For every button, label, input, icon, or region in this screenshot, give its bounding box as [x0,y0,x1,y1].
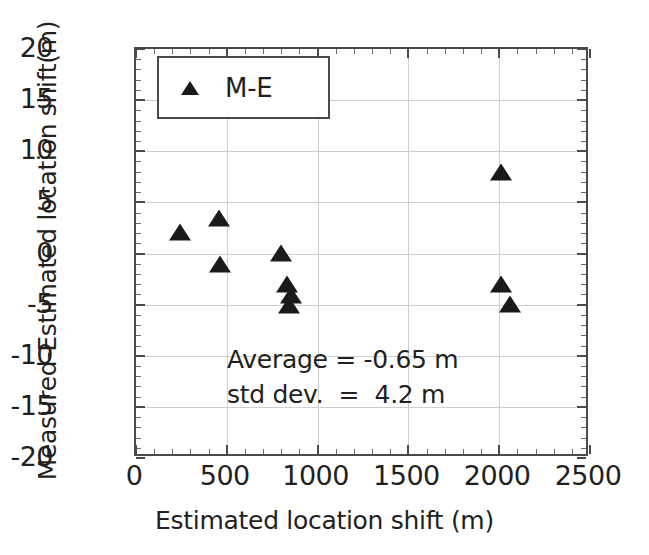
x-tick-minor [336,49,337,54]
y-tick-minor [581,397,586,398]
data-point-marker [169,224,191,241]
x-tick-minor [445,449,446,454]
y-tick-label: 0 [0,238,53,265]
y-tick-minor [581,325,586,326]
x-tick-minor [463,449,464,454]
y-tick-minor [581,274,586,275]
x-tick-major [407,445,409,454]
y-tick-minor [136,90,141,91]
legend-box: M-E [157,56,330,119]
y-tick-major [136,99,145,101]
x-tick-minor [263,49,264,54]
x-tick-minor [372,449,373,454]
y-tick-label: 10 [0,136,53,163]
statistics-annotation: Average = -0.65 mstd dev. = 4.2 m [227,343,458,412]
y-tick-minor [581,264,586,265]
x-tick-minor [209,449,210,454]
y-tick-major [577,457,586,459]
x-tick-minor [190,449,191,454]
y-tick-minor [136,325,141,326]
data-point-marker [278,296,300,313]
x-tick-minor [390,49,391,54]
y-tick-minor [581,161,586,162]
y-tick-minor [581,213,586,214]
y-tick-major [577,201,586,203]
y-tick-label: 20 [0,34,53,61]
y-tick-minor [581,141,586,142]
y-tick-minor [136,223,141,224]
annotation-line: std dev. = 4.2 m [227,378,458,413]
y-tick-minor [136,438,141,439]
data-point-marker [209,255,231,272]
x-tick-minor [536,449,537,454]
y-tick-minor [581,294,586,295]
x-tick-minor [299,49,300,54]
x-tick-minor [427,449,428,454]
x-tick-minor [572,449,573,454]
x-tick-minor [336,449,337,454]
x-tick-major [589,445,591,454]
y-tick-minor [136,243,141,244]
y-tick-minor [581,335,586,336]
gridline-horizontal [136,254,586,255]
x-tick-minor [517,449,518,454]
y-tick-major [577,150,586,152]
y-tick-minor [136,233,141,234]
y-tick-major [136,48,145,50]
y-tick-minor [136,192,141,193]
x-tick-major [135,49,137,58]
x-tick-label: 2500 [528,462,648,489]
y-tick-major [136,457,145,459]
y-tick-major [136,150,145,152]
x-tick-minor [427,49,428,54]
y-tick-label: 5 [0,187,53,214]
x-tick-minor [172,49,173,54]
y-tick-minor [136,69,141,70]
y-tick-label: 15 [0,85,53,112]
data-point-marker [208,209,230,226]
y-tick-minor [136,121,141,122]
y-tick-minor [581,110,586,111]
y-tick-minor [581,243,586,244]
x-tick-minor [481,49,482,54]
x-tick-major [407,49,409,58]
x-tick-minor [554,449,555,454]
y-tick-major [577,99,586,101]
y-tick-minor [136,366,141,367]
y-tick-minor [581,80,586,81]
y-tick-major [577,48,586,50]
y-tick-label: -5 [0,289,53,316]
x-tick-minor [245,49,246,54]
data-point-marker [499,295,521,312]
y-tick-minor [581,172,586,173]
gridline-vertical [499,49,500,454]
x-tick-minor [190,49,191,54]
y-tick-minor [136,80,141,81]
y-tick-minor [581,315,586,316]
y-tick-minor [136,264,141,265]
x-tick-minor [372,49,373,54]
y-tick-minor [581,233,586,234]
y-tick-minor [581,366,586,367]
y-tick-minor [136,386,141,387]
y-tick-minor [136,315,141,316]
x-tick-minor [281,49,282,54]
legend-label: M-E [225,73,272,103]
x-tick-minor [299,449,300,454]
x-tick-minor [390,449,391,454]
triangle-marker-icon [181,81,199,95]
x-tick-minor [281,449,282,454]
y-tick-minor [581,192,586,193]
y-tick-minor [136,335,141,336]
annotation-line: Average = -0.65 m [227,343,458,378]
x-tick-minor [481,449,482,454]
x-tick-minor [445,49,446,54]
y-tick-major [577,355,586,357]
y-tick-minor [581,284,586,285]
y-tick-major [577,304,586,306]
y-tick-minor [581,90,586,91]
y-tick-minor [581,69,586,70]
y-tick-minor [581,417,586,418]
y-tick-minor [581,448,586,449]
y-tick-major [136,355,145,357]
